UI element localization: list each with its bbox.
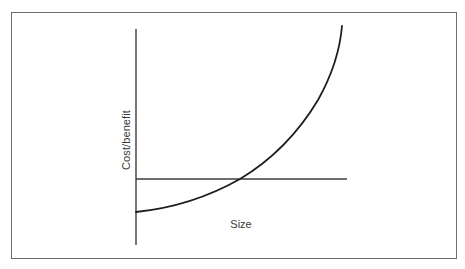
y-axis-label: Cost/benefit: [120, 110, 132, 170]
cost-curve: [136, 26, 342, 212]
x-axis-label: Size: [230, 218, 251, 230]
